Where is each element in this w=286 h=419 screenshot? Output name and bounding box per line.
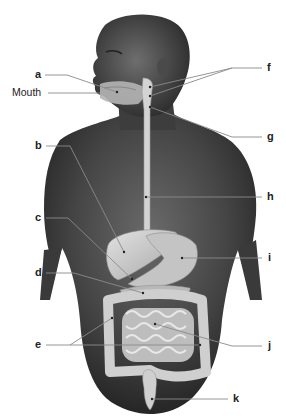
label-j: j <box>268 340 271 351</box>
label-k: k <box>233 393 239 404</box>
anatomy-illustration <box>0 0 286 419</box>
label-f: f <box>267 62 271 73</box>
label-b: b <box>35 140 42 151</box>
label-g: g <box>267 131 274 142</box>
digestive-system-diagram: a Mouth b c d e f g h i j k <box>0 0 286 419</box>
label-h: h <box>267 191 274 202</box>
label-d: d <box>35 267 42 278</box>
label-e: e <box>35 339 41 350</box>
label-a: a <box>35 69 41 80</box>
small-intestine <box>122 308 194 362</box>
label-mouth: Mouth <box>12 87 41 98</box>
label-c: c <box>35 212 41 223</box>
label-i: i <box>268 252 271 263</box>
head <box>93 14 190 116</box>
